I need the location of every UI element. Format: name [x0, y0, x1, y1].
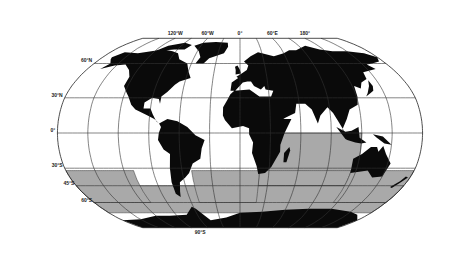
- world-map: 120°W60°W0°60°E180°60°N30°N0°30°S45°S60°…: [0, 0, 476, 260]
- latitude-label: 60°N: [81, 57, 93, 63]
- longitude-label: 180°: [300, 30, 310, 36]
- longitude-label: 60°E: [267, 30, 279, 36]
- japan: [366, 80, 373, 96]
- indian-ocean-south: [258, 171, 351, 186]
- new-guinea: [373, 134, 392, 145]
- latitude-label: 90°S: [195, 229, 207, 235]
- greenland: [194, 42, 228, 64]
- latitude-label: 30°S: [52, 162, 64, 168]
- latitude-label: 60°S: [81, 197, 93, 203]
- longitude-label: 0°: [238, 30, 243, 36]
- latitude-label: 30°N: [51, 92, 63, 98]
- latitude-label: 0°: [51, 127, 56, 133]
- latitude-label: 45°S: [63, 180, 75, 186]
- longitude-label: 120°W: [168, 30, 183, 36]
- south-atlantic-region: [192, 171, 260, 203]
- south-pacific-west: [66, 171, 151, 203]
- longitude-label: 60°W: [201, 30, 214, 36]
